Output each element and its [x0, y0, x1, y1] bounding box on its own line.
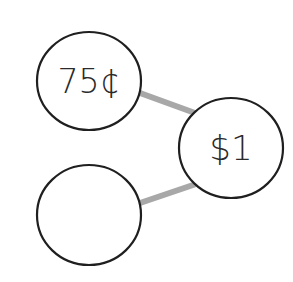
node-part-2[interactable] [37, 165, 141, 265]
node-part-1: 75¢ [37, 32, 141, 130]
number-bond-diagram: 75¢ $1 [0, 0, 293, 282]
part-2-circle-blank[interactable] [37, 165, 141, 265]
whole-label: $1 [209, 128, 252, 168]
part-1-label: 75¢ [58, 62, 121, 101]
node-whole: $1 [179, 98, 283, 198]
